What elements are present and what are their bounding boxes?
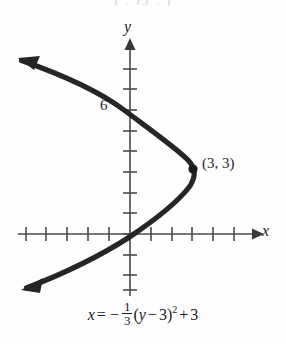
equation-inner-op: − bbox=[148, 306, 157, 323]
fraction-denominator: 3 bbox=[122, 314, 133, 327]
equation-lhs: x bbox=[88, 306, 95, 323]
vertex-point-marker bbox=[188, 164, 197, 173]
y-axis bbox=[123, 48, 137, 296]
equation-equals: = bbox=[97, 306, 106, 323]
y-tick-label-6: 6 bbox=[100, 97, 108, 114]
equation-fraction: 13 bbox=[122, 300, 133, 328]
x-axis-label: x bbox=[262, 222, 269, 240]
equation-inner-var: y bbox=[139, 306, 146, 323]
equation-plus: + bbox=[179, 306, 188, 323]
parabola-figure: ( , ),( , ) bbox=[0, 0, 286, 344]
equation-exponent: 2 bbox=[172, 304, 177, 315]
equation-constant: 3 bbox=[190, 306, 198, 323]
curve-arrowhead-lower-left bbox=[21, 278, 43, 293]
parabola-curve bbox=[22, 61, 195, 289]
graph-canvas bbox=[0, 0, 286, 344]
equation-sign: − bbox=[110, 306, 119, 323]
fraction-numerator: 1 bbox=[122, 300, 133, 314]
y-axis-label: y bbox=[124, 18, 131, 36]
equation-inner-const: 3 bbox=[159, 306, 167, 323]
equation-caption: x=−13(y−3)2+3 bbox=[0, 300, 286, 328]
vertex-point-label: (3, 3) bbox=[202, 155, 235, 172]
y-axis-arrowhead bbox=[125, 38, 136, 50]
